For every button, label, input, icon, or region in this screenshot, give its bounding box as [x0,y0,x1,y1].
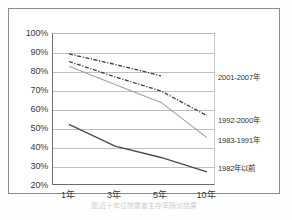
figure-caption: 图 近十年住院患者生存率随访结果 [8,200,280,210]
legend-item-1982-before: 1982年以前 [218,164,255,173]
series-line-1983-1991 [69,66,207,137]
y-axis-labels: 100% 90% 80% 70% 60% 50% 40% 30% 20% [2,33,48,185]
series-line-2001-2007 [69,54,161,76]
y-axis-tick: 20% [2,181,48,190]
figure-container: 100% 90% 80% 70% 60% 50% 40% 30% 20% 1年 … [0,0,292,220]
y-axis-tick: 60% [2,105,48,114]
legend-item-2001-2007: 2001-2007年 [218,73,260,82]
plot-area [52,33,215,185]
y-axis-tick: 80% [2,67,48,76]
y-axis-tick: 100% [2,29,48,38]
legend-item-1983-1991: 1983-1991年 [218,136,260,145]
y-axis-tick: 50% [2,124,48,133]
y-axis-tick: 40% [2,143,48,152]
y-axis-tick: 90% [2,48,48,57]
chart-legend: 2001-2007年 1992-2000年 1983-1991年 1982年以前 [218,33,288,185]
series-lines [53,34,216,186]
series-line-1982-before [69,124,207,172]
y-axis-tick: 30% [2,162,48,171]
y-axis-tick: 70% [2,86,48,95]
legend-item-1992-2000: 1992-2000年 [218,116,260,125]
